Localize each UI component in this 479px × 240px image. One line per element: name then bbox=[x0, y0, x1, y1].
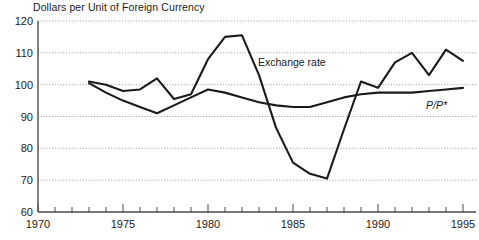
y-axis-tick-label-70: 70 bbox=[21, 174, 33, 186]
series-annotation-exchange-rate: Exchange rate bbox=[258, 56, 326, 68]
x-axis-tick-label-1980: 1980 bbox=[196, 218, 220, 230]
y-axis-tick-label-120: 120 bbox=[15, 15, 33, 27]
chart-container: Dollars per Unit of Foreign Currency 607… bbox=[0, 0, 479, 240]
y-axis-tick-label-60: 60 bbox=[21, 206, 33, 218]
x-axis-tick-label-1975: 1975 bbox=[111, 218, 135, 230]
series-line-p-over-pstar bbox=[89, 83, 463, 113]
x-axis-tick-label-1995: 1995 bbox=[451, 218, 475, 230]
chart-plot: 6070809010011012019701975198019851990199… bbox=[0, 0, 479, 240]
y-axis-tick-label-110: 110 bbox=[15, 47, 33, 59]
x-axis-tick-label-1985: 1985 bbox=[281, 218, 305, 230]
y-axis-tick-label-100: 100 bbox=[15, 79, 33, 91]
series-annotation-p-over-pstar: P/P* bbox=[426, 99, 448, 111]
x-axis-tick-label-1970: 1970 bbox=[26, 218, 50, 230]
x-axis-tick-label-1990: 1990 bbox=[366, 218, 390, 230]
y-axis-tick-label-90: 90 bbox=[21, 111, 33, 123]
y-axis-tick-label-80: 80 bbox=[21, 142, 33, 154]
